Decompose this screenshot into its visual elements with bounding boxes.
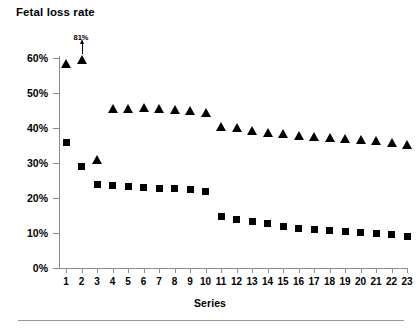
x-tick: [330, 268, 331, 273]
x-tick-label: 1: [58, 276, 74, 287]
x-tick-label: 13: [244, 276, 260, 287]
y-tick: [53, 58, 59, 59]
y-tick-label: 10%: [8, 228, 48, 238]
data-point-squares: [373, 230, 380, 237]
y-tick-label: 40%: [8, 123, 48, 133]
data-point-squares: [404, 233, 411, 240]
y-tick: [53, 233, 59, 234]
x-tick: [97, 268, 98, 273]
x-tick-label: 11: [213, 276, 229, 287]
x-tick: [128, 268, 129, 273]
data-point-squares: [280, 223, 287, 230]
data-point-squares: [140, 184, 147, 191]
data-point-triangles: [371, 136, 381, 145]
y-tick-label: 0%: [8, 263, 48, 273]
data-point-triangles: [309, 132, 319, 141]
data-point-squares: [171, 185, 178, 192]
data-point-triangles: [387, 138, 397, 147]
data-point-squares: [156, 185, 163, 192]
x-tick-label: 17: [306, 276, 322, 287]
x-tick: [190, 268, 191, 273]
x-tick: [392, 268, 393, 273]
data-point-triangles: [356, 135, 366, 144]
y-tick-label: 60%: [8, 53, 48, 63]
y-tick: [53, 163, 59, 164]
data-point-squares: [202, 188, 209, 195]
x-tick-label: 23: [399, 276, 415, 287]
data-point-triangles: [263, 128, 273, 137]
data-point-squares: [233, 216, 240, 223]
data-point-triangles: [325, 133, 335, 142]
data-point-squares: [218, 213, 225, 220]
chart-container: Fetal loss rate 0%10%20%30%40%50%60% 123…: [0, 0, 420, 331]
data-point-triangles: [185, 106, 195, 115]
data-point-triangles: [123, 104, 133, 113]
data-point-squares: [125, 183, 132, 190]
data-point-squares: [94, 181, 101, 188]
x-tick-label: 2: [74, 276, 90, 287]
x-tick: [206, 268, 207, 273]
x-tick: [159, 268, 160, 273]
data-point-squares: [295, 225, 302, 232]
data-point-triangles: [201, 108, 211, 117]
data-point-triangles: [232, 123, 242, 132]
data-point-triangles: [278, 129, 288, 138]
data-point-triangles: [154, 104, 164, 113]
x-tick-label: 20: [353, 276, 369, 287]
footer-divider: [18, 320, 404, 321]
data-point-squares: [357, 229, 364, 236]
data-point-squares: [109, 182, 116, 189]
y-axis-line: [59, 56, 60, 269]
data-point-triangles: [139, 103, 149, 112]
x-tick-label: 4: [105, 276, 121, 287]
data-point-squares: [264, 220, 271, 227]
data-point-triangles: [170, 105, 180, 114]
x-tick: [175, 268, 176, 273]
x-tick-label: 22: [384, 276, 400, 287]
x-tick-label: 19: [337, 276, 353, 287]
data-point-squares: [311, 226, 318, 233]
x-tick-label: 10: [198, 276, 214, 287]
x-tick: [144, 268, 145, 273]
x-tick: [314, 268, 315, 273]
data-point-triangles: [61, 59, 71, 68]
data-point-squares: [342, 228, 349, 235]
x-tick: [66, 268, 67, 273]
x-tick: [252, 268, 253, 273]
x-tick-label: 5: [120, 276, 136, 287]
x-tick: [221, 268, 222, 273]
x-tick-label: 18: [322, 276, 338, 287]
data-point-triangles: [247, 126, 257, 135]
data-point-triangles: [77, 55, 87, 64]
x-axis-line: [59, 268, 408, 269]
x-tick-label: 21: [368, 276, 384, 287]
x-tick-label: 14: [260, 276, 276, 287]
y-axis-title: Fetal loss rate: [16, 6, 95, 19]
y-tick: [53, 93, 59, 94]
x-tick-label: 9: [182, 276, 198, 287]
data-point-squares: [388, 231, 395, 238]
x-tick-label: 6: [136, 276, 152, 287]
x-tick: [283, 268, 284, 273]
annotation-arrow-icon: [82, 43, 83, 54]
y-tick-label: 20%: [8, 193, 48, 203]
y-tick: [53, 128, 59, 129]
data-point-squares: [326, 227, 333, 234]
x-tick-label: 7: [151, 276, 167, 287]
data-point-triangles: [402, 140, 412, 149]
x-tick: [345, 268, 346, 273]
data-point-triangles: [108, 104, 118, 113]
x-tick-label: 8: [167, 276, 183, 287]
x-tick: [113, 268, 114, 273]
data-point-triangles: [216, 122, 226, 131]
data-point-triangles: [92, 155, 102, 164]
x-tick-label: 12: [229, 276, 245, 287]
x-tick: [268, 268, 269, 273]
x-tick: [376, 268, 377, 273]
x-tick: [407, 268, 408, 273]
x-tick: [299, 268, 300, 273]
x-tick-label: 3: [89, 276, 105, 287]
x-tick: [82, 268, 83, 273]
x-axis-title: Series: [0, 297, 420, 310]
y-tick: [53, 268, 59, 269]
